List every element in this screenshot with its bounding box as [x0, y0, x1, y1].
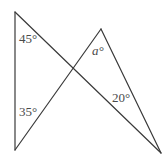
- geometry-figure: 45° 35° a° 20°: [0, 0, 167, 161]
- angle-label-bottom-left: 35°: [19, 105, 37, 118]
- angle-label-top-left: 45°: [19, 32, 37, 45]
- figure-canvas: [0, 0, 167, 161]
- angle-label-apex-unknown: a°: [92, 44, 104, 57]
- line-apex-to-bottomright: [101, 29, 161, 153]
- angle-label-bottom-right: 20°: [112, 91, 130, 104]
- line-bottomleft-to-apex: [15, 29, 101, 150]
